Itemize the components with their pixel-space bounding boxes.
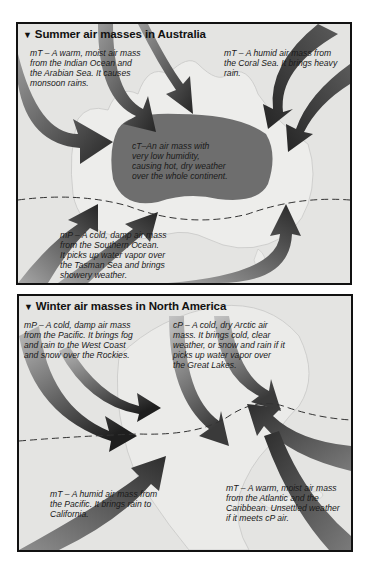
label-au-mT-coral: mT – A humid air mass from the Coral Sea… <box>224 48 337 78</box>
label-au-mP: mP – A cold, damp air mass from the Sout… <box>60 230 167 280</box>
australia-summer-panel: ▼Summer air masses in Australia mT – A w… <box>16 22 352 285</box>
triangle-marker-icon: ▼ <box>23 30 32 40</box>
label-na-mP: mP – A cold, damp air mass from the Paci… <box>24 320 133 360</box>
label-au-mT-indian: mT – A warm, moist air mass from the Ind… <box>30 48 141 88</box>
panel-title: ▼Summer air masses in Australia <box>23 28 206 40</box>
label-na-mT-pacific: mT – A humid air mass from the Pacific. … <box>50 489 157 519</box>
label-na-cP: cP – A cold, dry Arctic air mass. It bri… <box>173 320 285 370</box>
label-au-cT: cT–An air mass with very low humidity, c… <box>132 141 228 181</box>
label-na-mT-atlantic: mT – A warm, moist air mass from the Atl… <box>226 483 340 523</box>
triangle-marker-icon: ▼ <box>24 302 33 312</box>
north-america-winter-panel: ▼Winter air masses in North America mP –… <box>17 294 353 552</box>
panel-title: ▼Winter air masses in North America <box>24 300 226 312</box>
